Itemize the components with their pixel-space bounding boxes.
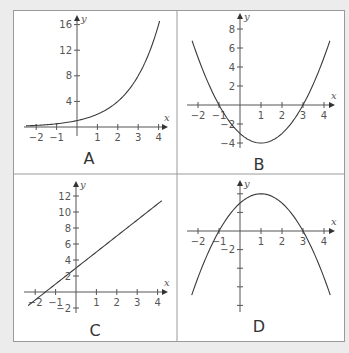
- x-axis-label: x: [164, 277, 170, 288]
- x-tick-label: 3: [134, 297, 140, 308]
- y-tick-label: −2: [220, 244, 235, 255]
- y-tick-label: 4: [66, 96, 72, 107]
- y-tick-label: 10: [58, 207, 71, 218]
- x-tick-label: 1: [258, 110, 264, 121]
- y-axis-arrow-icon: [237, 180, 243, 186]
- y-tick-label: 12: [59, 45, 72, 56]
- x-tick-label: 4: [321, 110, 327, 121]
- y-axis-arrow-icon: [74, 15, 80, 21]
- y-tick-label: 8: [65, 223, 71, 234]
- y-tick-label: 16: [59, 19, 72, 30]
- graph-panel-d: xy−2−11234−2D: [187, 178, 337, 336]
- x-tick-label: 3: [135, 132, 141, 143]
- x-tick-label: 3: [300, 110, 306, 121]
- x-tick-label: −2: [191, 236, 206, 247]
- x-tick-label: 2: [115, 132, 121, 143]
- x-tick-label: 1: [258, 236, 264, 247]
- y-tick-label: −2: [220, 119, 235, 130]
- y-tick-label: 4: [229, 62, 235, 73]
- x-tick-label: 1: [93, 297, 99, 308]
- y-axis-label: y: [80, 13, 87, 24]
- y-tick-label: 4: [65, 255, 71, 266]
- y-axis-label: y: [79, 179, 86, 190]
- graph-panel-b: xy−2−11234−4−22468B: [187, 11, 337, 174]
- x-tick-label: −2: [29, 132, 44, 143]
- y-tick-label: 2: [229, 81, 235, 92]
- x-tick-label: 1: [94, 132, 100, 143]
- function-curve: [26, 21, 160, 126]
- panel-label: D: [253, 317, 265, 336]
- y-tick-label: −4: [220, 138, 235, 149]
- x-tick-label: 2: [279, 110, 285, 121]
- x-tick-label: 4: [154, 297, 160, 308]
- x-axis-arrow-icon: [162, 289, 168, 295]
- function-curve: [28, 201, 162, 306]
- y-axis-label: y: [243, 11, 250, 22]
- x-tick-label: 4: [155, 132, 161, 143]
- y-tick-label: 6: [229, 43, 235, 54]
- y-axis-label: y: [243, 178, 250, 189]
- panel-label: A: [84, 149, 95, 168]
- graphs-svg: xy−2−11234481216Axy−2−11234−4−22468Bxy−2…: [0, 0, 349, 353]
- x-axis-label: x: [331, 216, 337, 227]
- y-tick-label: 8: [229, 24, 235, 35]
- x-axis-label: x: [164, 112, 170, 123]
- graph-panel-a: xy−2−11234481216A: [24, 13, 170, 168]
- x-axis-arrow-icon: [329, 102, 335, 108]
- x-tick-label: 2: [114, 297, 120, 308]
- x-tick-label: −2: [191, 110, 206, 121]
- x-axis-arrow-icon: [162, 124, 168, 130]
- x-tick-label: −2: [28, 297, 43, 308]
- panel-label: B: [254, 155, 265, 174]
- x-tick-label: −1: [49, 132, 64, 143]
- x-tick-label: 4: [321, 236, 327, 247]
- y-axis-arrow-icon: [73, 181, 79, 187]
- y-tick-label: 8: [66, 70, 72, 81]
- x-tick-label: 3: [300, 236, 306, 247]
- x-axis-label: x: [331, 90, 337, 101]
- y-tick-label: 12: [58, 191, 71, 202]
- y-tick-label: −2: [56, 303, 71, 314]
- x-axis-arrow-icon: [329, 228, 335, 234]
- panel-label: C: [89, 321, 100, 340]
- function-curve: [192, 41, 330, 143]
- y-tick-label: 6: [65, 239, 71, 250]
- y-axis-arrow-icon: [237, 13, 243, 19]
- graph-panel-c: xy−2−11234−224681012C: [24, 179, 170, 340]
- x-tick-label: 2: [279, 236, 285, 247]
